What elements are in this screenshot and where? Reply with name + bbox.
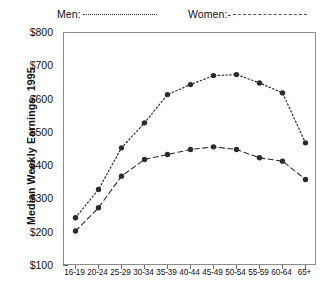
- data-point-marker: [257, 80, 262, 85]
- legend-label-women: Women:-: [188, 8, 231, 20]
- y-axis-labels: $800$700$600$500$400$300$200$100: [0, 32, 59, 265]
- series-line: [76, 147, 306, 231]
- chart-legend: Men: Women:-: [0, 6, 329, 26]
- data-point-marker: [257, 155, 262, 160]
- data-point-marker: [234, 72, 239, 77]
- legend-label-men: Men:: [57, 8, 81, 20]
- x-tick-label: 65+: [298, 268, 312, 277]
- series-line: [76, 75, 306, 218]
- data-point-marker: [119, 173, 124, 178]
- data-point-marker: [280, 90, 285, 95]
- x-tick-label: 16-19: [64, 268, 84, 277]
- data-point-marker: [234, 147, 239, 152]
- chart-container: Men: Women:- Median Weekly Earnings, 199…: [0, 0, 329, 292]
- data-point-marker: [188, 82, 193, 87]
- legend-line-men-dotted: [83, 14, 157, 15]
- y-tick-label: $300: [30, 192, 53, 204]
- data-point-marker: [119, 145, 124, 150]
- data-point-marker: [96, 187, 101, 192]
- data-point-marker: [211, 144, 216, 149]
- x-tick-label: 60-64: [271, 268, 291, 277]
- y-tick-label: $700: [30, 59, 53, 71]
- data-point-marker: [188, 147, 193, 152]
- x-tick-label: 50-54: [225, 268, 245, 277]
- data-point-marker: [165, 152, 170, 157]
- series-women: [73, 144, 308, 234]
- x-tick-label: 25-29: [110, 268, 130, 277]
- plot-area: [63, 32, 316, 265]
- legend-line-women-dashed: [233, 14, 307, 15]
- data-point-marker: [165, 92, 170, 97]
- data-point-marker: [303, 177, 308, 182]
- data-point-marker: [211, 73, 216, 78]
- y-tick-label: $800: [30, 26, 53, 38]
- x-tick-label: 45-49: [202, 268, 222, 277]
- x-tick-label: 35-39: [156, 268, 176, 277]
- data-point-marker: [280, 158, 285, 163]
- data-point-marker: [73, 215, 78, 220]
- y-tick-label: $200: [30, 226, 53, 238]
- y-tick-label: $600: [30, 93, 53, 105]
- series-canvas: [64, 33, 317, 266]
- data-point-marker: [142, 157, 147, 162]
- series-men: [73, 72, 308, 221]
- x-tick-label: 20-24: [87, 268, 107, 277]
- y-tick-label: $500: [30, 126, 53, 138]
- y-tick-label: $100: [30, 259, 53, 271]
- legend-entry-men: Men:: [57, 6, 157, 22]
- data-point-marker: [142, 120, 147, 125]
- y-tick-label: $400: [30, 159, 53, 171]
- x-tick-label: 55-59: [248, 268, 268, 277]
- x-tick-label: 40-44: [179, 268, 199, 277]
- legend-entry-women: Women:-: [188, 6, 307, 22]
- data-point-marker: [96, 205, 101, 210]
- data-point-marker: [303, 140, 308, 145]
- data-point-marker: [73, 228, 78, 233]
- x-axis-labels: 16-1920-2425-2930-3435-3940-4445-4950-54…: [63, 268, 316, 284]
- x-tick-label: 30-34: [133, 268, 153, 277]
